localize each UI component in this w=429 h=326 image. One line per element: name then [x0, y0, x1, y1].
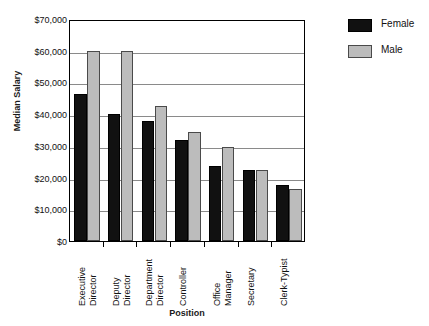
bar-male: [87, 51, 100, 241]
bar-chart: Median Salary $70,000$60,000$50,000$40,0…: [0, 0, 429, 326]
bar-group: [205, 21, 239, 241]
x-axis-title: Position: [69, 308, 305, 318]
category-label-line: Executive: [78, 267, 88, 306]
bar-female: [142, 121, 155, 242]
bar-group: [239, 21, 273, 241]
x-axis-category-labels: ExecutiveDirectorDeputyDirectorDepartmen…: [69, 246, 305, 308]
bars-layer: [70, 21, 304, 241]
y-axis-tick-label: $60,000: [14, 47, 67, 57]
y-axis-tick-label: $10,000: [14, 205, 67, 215]
category-label-line: Director: [89, 274, 99, 306]
legend-swatch-female-icon: [348, 19, 372, 32]
legend-swatch-male-icon: [348, 45, 372, 58]
category-label-line: Director: [123, 274, 133, 306]
bar-male: [121, 51, 134, 241]
bar-female: [243, 170, 256, 241]
bar-female: [175, 140, 188, 241]
legend-item-female: Female: [348, 17, 426, 38]
bar-group: [137, 21, 171, 241]
category-label-line: Director: [156, 274, 166, 306]
category-label-line: Office: [213, 283, 223, 306]
legend: Female Male: [348, 17, 426, 69]
y-axis-tick-label: $30,000: [14, 142, 67, 152]
y-axis-tick-label: $40,000: [14, 110, 67, 120]
y-axis-tick-labels: $70,000$60,000$50,000$40,000$30,000$20,0…: [14, 20, 67, 242]
bar-female: [276, 185, 289, 241]
category-label-line: Secretary: [247, 267, 257, 306]
y-axis-tick-label: $0: [14, 237, 67, 247]
plot-area: [69, 20, 305, 242]
bar-group: [171, 21, 205, 241]
legend-label-male: Male: [381, 44, 403, 55]
legend-label-female: Female: [381, 18, 414, 29]
bar-female: [74, 94, 87, 241]
bar-male: [222, 147, 235, 241]
bar-male: [188, 132, 201, 241]
bar-group: [70, 21, 104, 241]
category-label-line: Clerk-Typist: [280, 258, 290, 306]
bar-female: [209, 166, 222, 241]
y-axis-tick-label: $50,000: [14, 78, 67, 88]
bar-female: [108, 114, 121, 241]
category-label-line: Department: [145, 259, 155, 306]
bar-group: [104, 21, 138, 241]
category-label-line: Deputy: [112, 277, 122, 306]
y-axis-tick-label: $70,000: [14, 15, 67, 25]
legend-item-male: Male: [348, 43, 426, 64]
category-label-line: Manager: [224, 270, 234, 306]
y-axis-tick-label: $20,000: [14, 174, 67, 184]
bar-male: [256, 170, 269, 241]
bar-male: [289, 189, 302, 241]
category-label-line: Controller: [179, 267, 189, 306]
bar-group: [272, 21, 306, 241]
bar-male: [155, 106, 168, 241]
